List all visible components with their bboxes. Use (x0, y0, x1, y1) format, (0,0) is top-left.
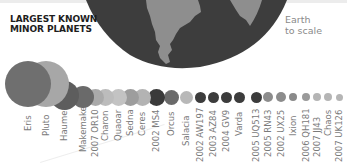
planet-circle (221, 92, 232, 103)
planet-label: 2006 QH181 (301, 108, 311, 162)
planet-circle (164, 90, 179, 105)
planet-label: Quaoar (113, 110, 123, 141)
planet-label: 2005 UQ513 (251, 109, 261, 162)
planet-circle (195, 92, 206, 103)
planet-circle (313, 93, 321, 101)
planet-circle (289, 93, 297, 101)
planet-label: 2007 OR10 (90, 109, 100, 157)
minor-planets-row: ErisPlutoHaumeaMakemake2007 OR10CharonQu… (0, 0, 347, 167)
planet-circle (5, 61, 51, 107)
planet-circle (302, 93, 310, 101)
planet-circle (336, 94, 343, 101)
planet-label: Charon (100, 111, 110, 141)
planet-circle (234, 92, 245, 103)
planet-label: Ixion (288, 116, 298, 137)
planet-label: 2002 UX25 (276, 110, 286, 157)
planet-label: Chaos (323, 110, 333, 136)
planet-label: Sedna (125, 109, 135, 136)
planet-label: 2007 JJ43 (312, 117, 322, 157)
planet-label: Haumea (59, 105, 69, 141)
planet-circle (263, 92, 273, 102)
planet-label: Eris (23, 115, 33, 131)
planet-label: Salacia (181, 116, 191, 146)
planet-circle (180, 91, 193, 104)
planet-label: 2005 RN43 (263, 109, 273, 156)
planet-circle (324, 93, 332, 101)
planet-label: 2003 AZ84 (208, 110, 218, 157)
planet-circle (276, 92, 286, 102)
planet-label: 2002 MS4 (151, 109, 161, 151)
planet-label: Orcus (166, 112, 176, 137)
planet-label: Makemake (78, 106, 88, 152)
planet-label: 2007 UK126 (334, 110, 344, 162)
planet-circle (251, 92, 262, 103)
planet-label: Varda (234, 112, 244, 136)
planet-label: 2004 GV9 (221, 109, 231, 151)
planet-circle (208, 92, 219, 103)
planet-label: Pluto (41, 115, 51, 136)
planet-label: Ceres (137, 112, 147, 136)
planet-label: 2002 AW197 (195, 108, 205, 162)
